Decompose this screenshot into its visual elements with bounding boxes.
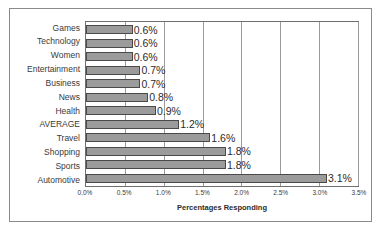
bar[interactable] [86,39,133,48]
category-label: Travel [10,132,84,146]
x-tick-label: 2.5% [273,189,288,196]
bar-data-label: 3.1% [328,173,352,184]
bar-row: 1.2% [86,118,358,132]
chart-frame: GamesTechnologyWomenEntertainmentBusines… [9,8,372,222]
y-axis-category-labels: GamesTechnologyWomenEntertainmentBusines… [10,21,84,187]
category-label: Shopping [10,145,84,159]
category-label: Automotive [10,173,84,187]
bar-data-label: 1.8% [227,160,251,171]
bar[interactable] [86,79,140,88]
bar-row: 0.7% [86,64,358,78]
bar[interactable] [86,106,156,115]
bar-row: 0.7% [86,77,358,91]
category-label: Games [10,21,84,35]
gridline [358,22,359,186]
bar[interactable] [86,160,226,169]
bar-data-label: 0.7% [141,65,165,76]
x-axis-title: Percentages Responding [85,203,359,212]
x-axis-tick-labels: 0.0%0.5%1.0%1.5%2.0%2.5%3.0%3.5% [85,189,359,201]
plot-area: 0.6%0.6%0.6%0.7%0.7%0.8%0.9%1.2%1.6%1.8%… [85,21,359,187]
category-label: Technology [10,35,84,49]
bar-data-label: 0.9% [157,106,181,117]
x-tick-label: 0.5% [117,189,132,196]
bar-row: 1.8% [86,158,358,172]
bar-row: 1.8% [86,145,358,159]
bar-row: 0.8% [86,91,358,105]
category-label: Sports [10,159,84,173]
bar-data-label: 0.8% [149,92,173,103]
category-label: News [10,90,84,104]
bar-row: 3.1% [86,172,358,186]
bar-row: 0.9% [86,104,358,118]
category-label: AVERAGE [10,118,84,132]
x-tick-label: 1.0% [156,189,171,196]
x-tick-label: 3.0% [312,189,327,196]
bar-row: 0.6% [86,37,358,51]
x-tick-label: 3.5% [352,189,367,196]
bar[interactable] [86,147,226,156]
bar-data-label: 0.6% [134,38,158,49]
bar-row: 1.6% [86,131,358,145]
category-label: Health [10,104,84,118]
bar-row: 0.6% [86,50,358,64]
bar[interactable] [86,25,133,34]
bar[interactable] [86,120,179,129]
bar-row: 0.6% [86,23,358,37]
bar-data-label: 1.2% [180,119,204,130]
bar-series: 0.6%0.6%0.6%0.7%0.7%0.8%0.9%1.2%1.6%1.8%… [86,22,358,186]
bar[interactable] [86,93,148,102]
bar-data-label: 1.8% [227,146,251,157]
category-label: Entertainment [10,62,84,76]
bar[interactable] [86,66,140,75]
x-tick-label: 2.0% [234,189,249,196]
bar-data-label: 0.7% [141,79,165,90]
x-tick-label: 1.5% [195,189,210,196]
bar-data-label: 0.6% [134,25,158,36]
x-tick-label: 0.0% [78,189,93,196]
bar[interactable] [86,52,133,61]
bar-data-label: 0.6% [134,52,158,63]
bar[interactable] [86,174,327,183]
category-label: Women [10,49,84,63]
bar-data-label: 1.6% [211,133,235,144]
category-label: Business [10,76,84,90]
bar[interactable] [86,133,210,142]
